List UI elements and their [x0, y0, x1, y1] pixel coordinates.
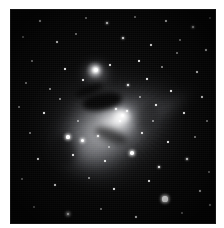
star [199, 190, 201, 192]
star [122, 37, 124, 39]
star [97, 135, 100, 138]
star [192, 26, 194, 28]
star [106, 22, 109, 25]
star [135, 216, 137, 218]
star [196, 71, 198, 73]
star [130, 151, 134, 155]
star [115, 108, 118, 111]
star [29, 132, 31, 134]
star [158, 166, 161, 169]
star [109, 64, 111, 66]
star [126, 110, 128, 112]
screenshot-root [0, 0, 224, 228]
star [108, 146, 110, 148]
star [146, 78, 148, 80]
star [119, 120, 121, 122]
star [181, 212, 183, 214]
starfield [10, 9, 216, 224]
star [150, 44, 152, 46]
star [183, 112, 185, 114]
star [209, 204, 211, 206]
star [127, 84, 129, 86]
star [176, 52, 177, 53]
star [201, 96, 203, 98]
star [75, 33, 77, 35]
star [121, 114, 124, 117]
star [94, 68, 99, 73]
star [138, 60, 140, 62]
star [59, 98, 60, 99]
star [152, 120, 154, 122]
star [134, 16, 135, 17]
star [37, 158, 39, 160]
star [49, 88, 51, 90]
star [56, 41, 58, 43]
star [43, 112, 45, 114]
star [81, 139, 84, 142]
star [165, 20, 167, 22]
star [186, 158, 188, 160]
star [148, 180, 150, 182]
star [88, 177, 90, 179]
star [170, 90, 172, 92]
star [139, 96, 141, 98]
star [155, 104, 157, 106]
star [66, 135, 69, 138]
star [209, 17, 211, 19]
star [85, 17, 87, 19]
star [167, 141, 169, 143]
star [22, 36, 24, 38]
star [39, 20, 41, 22]
star [179, 39, 181, 41]
star [18, 106, 20, 108]
star [205, 49, 207, 51]
star [104, 160, 106, 162]
star [72, 154, 74, 156]
star [25, 82, 27, 84]
star [100, 208, 102, 210]
star [21, 178, 23, 180]
star [113, 188, 115, 190]
star [206, 120, 208, 122]
star [141, 132, 143, 134]
star [33, 206, 35, 208]
astrophoto-plate [10, 9, 216, 224]
star [31, 60, 33, 62]
star [54, 184, 56, 186]
star [194, 136, 196, 138]
star [77, 120, 79, 122]
star [67, 213, 70, 216]
star [64, 68, 66, 70]
star [162, 196, 167, 201]
star [161, 66, 163, 68]
star [82, 79, 84, 81]
star [208, 171, 210, 173]
photo-mat-frame [0, 0, 224, 228]
